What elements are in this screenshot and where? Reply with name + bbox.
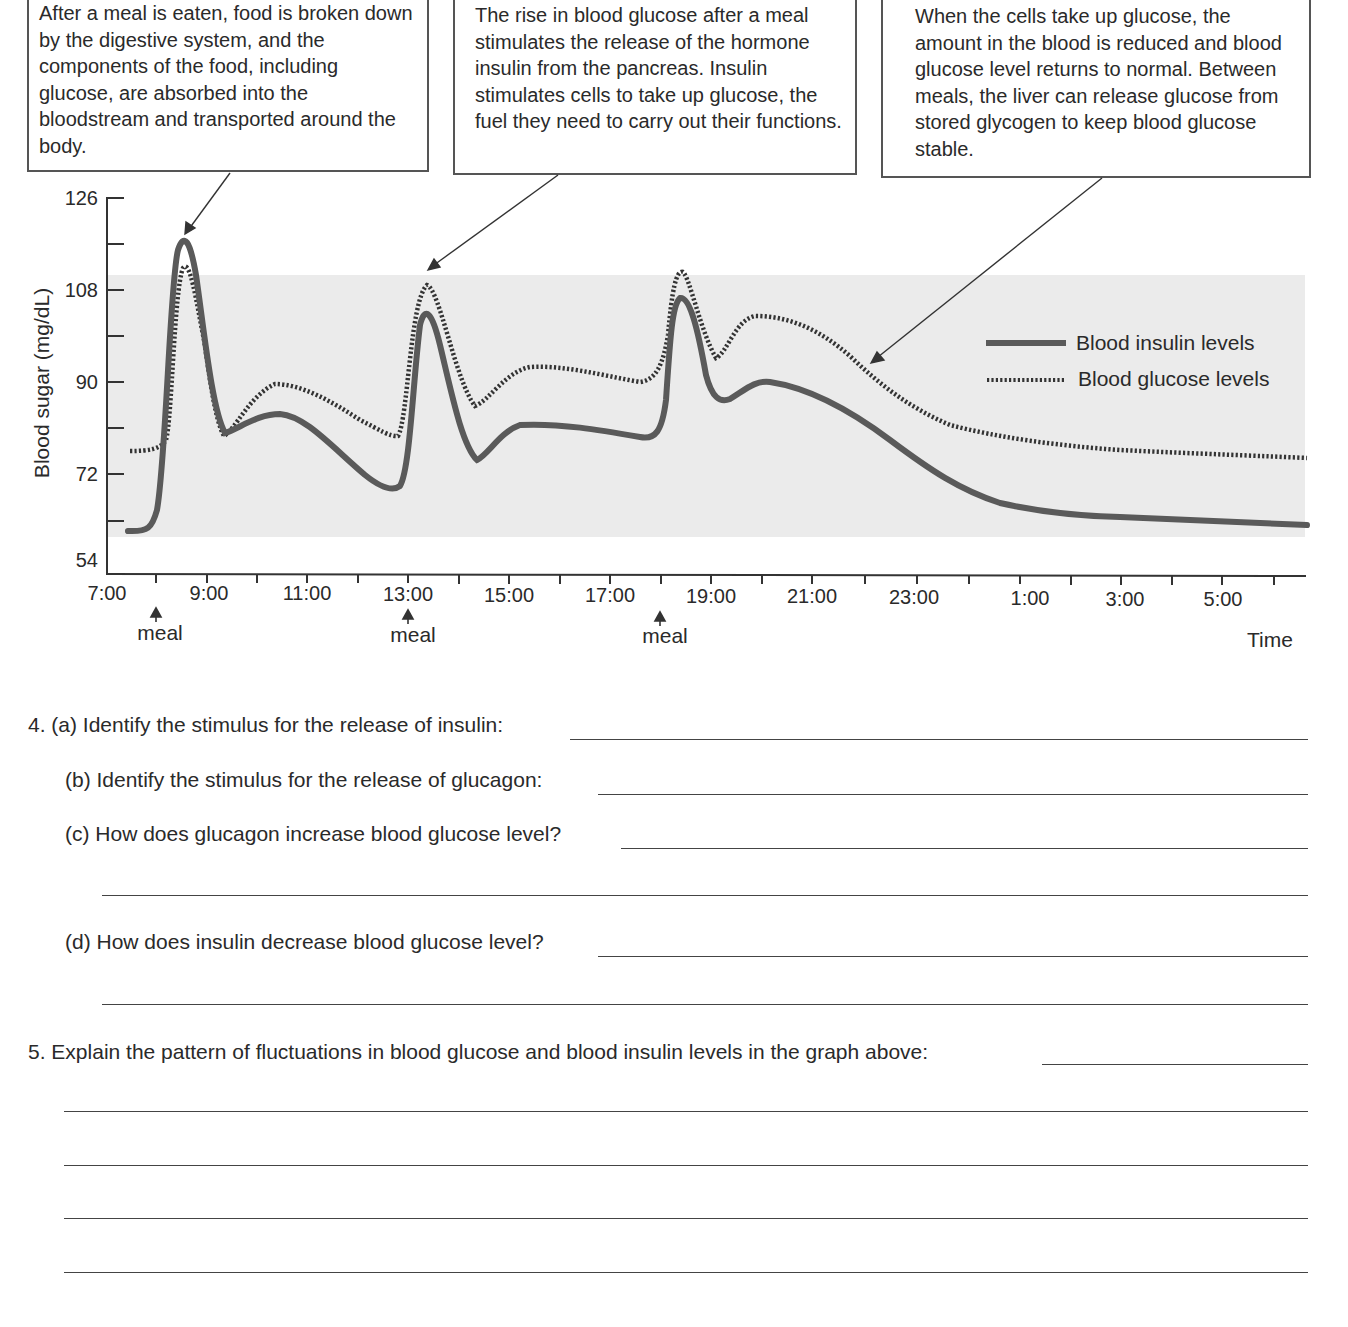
y-tick-72: 72 — [76, 463, 98, 485]
meal-marker: meal — [390, 610, 436, 646]
answer-line-4c-2[interactable] — [102, 895, 1308, 896]
question-5: 5. Explain the pattern of fluctuations i… — [28, 1040, 928, 1064]
answer-line-5-5[interactable] — [64, 1272, 1308, 1273]
x-tick-label: 17:00 — [585, 584, 635, 606]
svg-text:meal: meal — [390, 623, 436, 646]
answer-line-4c[interactable] — [621, 848, 1308, 849]
question-4c: (c) How does glucagon increase blood glu… — [65, 822, 561, 846]
blood-sugar-chart: 126 108 90 72 54 Blood sugar (mg/dL) 7:0… — [0, 0, 1348, 670]
answer-line-4b[interactable] — [598, 794, 1308, 795]
answer-line-5[interactable] — [1042, 1064, 1308, 1065]
x-tick-label: 5:00 — [1204, 588, 1243, 610]
x-tick-label: 13:00 — [383, 583, 433, 605]
x-tick-label: 23:00 — [889, 586, 939, 608]
x-tick-label: 19:00 — [686, 585, 736, 607]
answer-line-5-3[interactable] — [64, 1165, 1308, 1166]
question-4b: (b) Identify the stimulus for the releas… — [65, 768, 542, 792]
y-axis-title: Blood sugar (mg/dL) — [30, 288, 53, 478]
x-tick-label: 9:00 — [190, 582, 229, 604]
y-tick-90: 90 — [76, 371, 98, 393]
answer-line-4d[interactable] — [598, 956, 1308, 957]
meal-marker: meal — [137, 608, 183, 644]
question-4a: 4. (a) Identify the stimulus for the rel… — [28, 713, 503, 737]
answer-line-5-4[interactable] — [64, 1218, 1308, 1219]
arrow-up-icon — [403, 610, 413, 624]
answer-line-5-2[interactable] — [64, 1111, 1308, 1112]
x-tick-label: 21:00 — [787, 585, 837, 607]
x-axis-title: Time — [1247, 628, 1293, 651]
legend-insulin-label: Blood insulin levels — [1076, 331, 1255, 354]
arrow-up-icon — [151, 608, 161, 622]
meal-marker: meal — [642, 612, 688, 647]
question-4d: (d) How does insulin decrease blood gluc… — [65, 930, 544, 954]
svg-text:meal: meal — [137, 621, 183, 644]
legend-glucose-label: Blood glucose levels — [1078, 367, 1269, 390]
answer-line-4a[interactable] — [570, 739, 1308, 740]
x-tick-label: 15:00 — [484, 584, 534, 606]
y-tick-126: 126 — [65, 187, 98, 209]
y-tick-54: 54 — [76, 549, 98, 571]
x-tick-label: 3:00 — [1106, 588, 1145, 610]
x-tick-label: 7:00 — [88, 582, 127, 604]
answer-line-4d-2[interactable] — [102, 1004, 1308, 1005]
svg-text:meal: meal — [642, 624, 688, 647]
x-tick-label: 1:00 — [1011, 587, 1050, 609]
x-tick-label: 11:00 — [283, 582, 332, 604]
normal-range-band — [107, 275, 1305, 537]
y-tick-108: 108 — [65, 279, 98, 301]
